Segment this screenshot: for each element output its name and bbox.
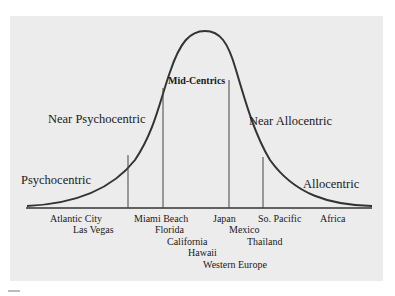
destination-mexico: Mexico <box>229 224 260 235</box>
destination-california: California <box>167 236 208 247</box>
page-corner-mark <box>8 290 20 292</box>
segment-allocentric: Allocentric <box>303 177 359 192</box>
segment-psychocentric: Psychocentric <box>21 173 91 188</box>
destination-las-vegas: Las Vegas <box>73 224 114 235</box>
destination-thailand: Thailand <box>247 236 283 247</box>
segment-near-psychocentric: Near Psychocentric <box>48 112 146 127</box>
destination-so-pacific: So. Pacific <box>258 213 301 224</box>
destination-atlantic-city: Atlantic City <box>50 213 102 224</box>
destination-western-europe: Western Europe <box>203 259 267 270</box>
destination-florida: Florida <box>155 224 184 235</box>
segment-near-allocentric: Near Allocentric <box>249 114 332 129</box>
destination-hawaii: Hawaii <box>188 247 217 258</box>
destination-japan: Japan <box>213 213 236 224</box>
segment-mid-centrics: Mid-Centrics <box>168 75 225 86</box>
destination-africa: Africa <box>320 213 346 224</box>
destination-miami-beach: Miami Beach <box>134 213 188 224</box>
